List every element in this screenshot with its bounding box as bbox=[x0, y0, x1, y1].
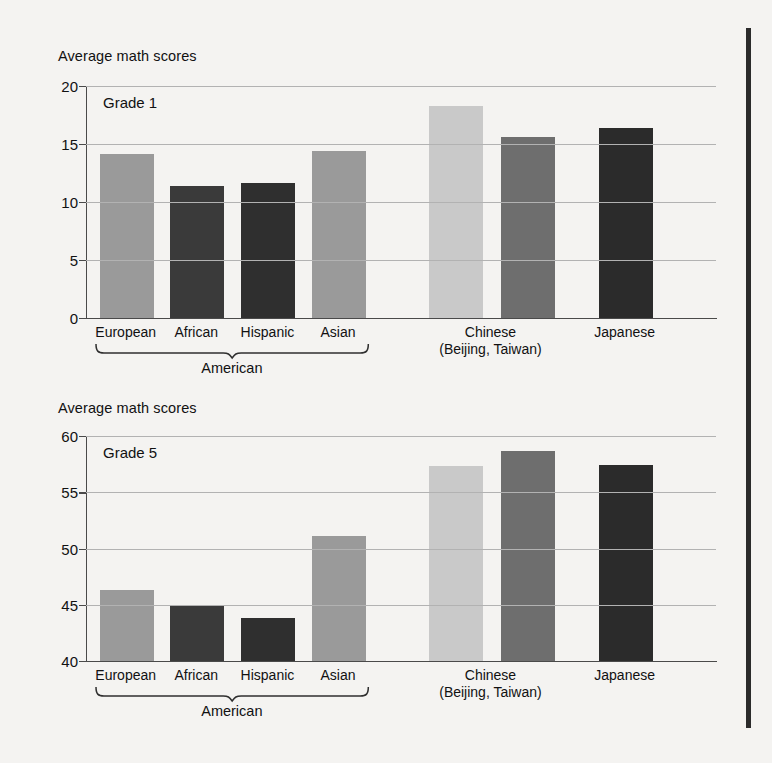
bar bbox=[312, 151, 366, 318]
x-axis-label-line: Chinese bbox=[439, 667, 541, 684]
y-tick-mark bbox=[79, 144, 86, 145]
x-axis-label-line: Asian bbox=[320, 667, 355, 684]
y-tick-label: 45 bbox=[38, 596, 78, 613]
x-axis-label: Hispanic bbox=[241, 667, 295, 684]
x-axis-label-line: (Beijing, Taiwan) bbox=[439, 684, 541, 701]
gridline bbox=[86, 202, 716, 203]
x-axis-label-line: Hispanic bbox=[241, 324, 295, 341]
x-axis-label-line: European bbox=[95, 667, 156, 684]
x-axis-label-line: African bbox=[174, 324, 218, 341]
x-axis-label-line: African bbox=[174, 667, 218, 684]
y-tick-mark bbox=[79, 549, 86, 550]
page-edge-rule bbox=[746, 28, 751, 728]
bar bbox=[100, 590, 154, 661]
y-tick-label: 0 bbox=[38, 310, 78, 327]
group-brace-icon bbox=[94, 344, 370, 360]
y-tick-mark bbox=[79, 436, 86, 437]
gridline bbox=[86, 436, 716, 437]
x-axis-label-line: Chinese bbox=[439, 324, 541, 341]
y-tick-label: 55 bbox=[38, 484, 78, 501]
y-tick-label: 40 bbox=[38, 653, 78, 670]
bar bbox=[429, 106, 483, 318]
y-tick-mark bbox=[79, 492, 86, 493]
x-axis-label: European bbox=[95, 324, 156, 341]
bar bbox=[241, 618, 295, 661]
gridline bbox=[86, 549, 716, 550]
x-axis-label-line: Hispanic bbox=[241, 667, 295, 684]
x-axis-label: Chinese(Beijing, Taiwan) bbox=[439, 324, 541, 357]
group-bracket-label: American bbox=[201, 360, 262, 376]
x-axis-label-line: Japanese bbox=[594, 324, 655, 341]
group-brace-icon bbox=[94, 687, 370, 703]
y-tick-mark bbox=[79, 86, 86, 87]
x-axis-label: European bbox=[95, 667, 156, 684]
bar bbox=[100, 154, 154, 318]
y-tick-label: 20 bbox=[38, 78, 78, 95]
bar bbox=[501, 137, 555, 318]
y-tick-label: 5 bbox=[38, 252, 78, 269]
bar bbox=[312, 536, 366, 661]
y-tick-mark bbox=[79, 202, 86, 203]
x-axis-label: Japanese bbox=[594, 667, 655, 684]
x-axis-label: Asian bbox=[320, 324, 355, 341]
figure-page: Average math scores Grade 1 05101520 Eur… bbox=[0, 0, 772, 763]
gridline bbox=[86, 605, 716, 606]
x-axis-label-line: European bbox=[95, 324, 156, 341]
gridline bbox=[86, 86, 716, 87]
y-tick-label: 10 bbox=[38, 194, 78, 211]
gridline bbox=[86, 492, 716, 493]
bar bbox=[599, 465, 653, 661]
y-tick-label: 15 bbox=[38, 136, 78, 153]
y-axis-title-grade-1: Average math scores bbox=[58, 48, 197, 64]
bar bbox=[170, 186, 224, 318]
y-tick-mark bbox=[79, 661, 86, 662]
x-axis-label-line: Japanese bbox=[594, 667, 655, 684]
bar bbox=[599, 128, 653, 318]
x-axis-label-line: (Beijing, Taiwan) bbox=[439, 341, 541, 358]
gridline bbox=[86, 144, 716, 145]
gridline bbox=[86, 260, 716, 261]
bar bbox=[170, 606, 224, 661]
y-tick-label: 50 bbox=[38, 540, 78, 557]
x-axis-label: Japanese bbox=[594, 324, 655, 341]
bar bbox=[241, 183, 295, 318]
x-axis-label: Chinese(Beijing, Taiwan) bbox=[439, 667, 541, 700]
group-bracket-label: American bbox=[201, 703, 262, 719]
x-axis-label-line: Asian bbox=[320, 324, 355, 341]
x-axis-label: African bbox=[174, 324, 218, 341]
x-axis-label: Asian bbox=[320, 667, 355, 684]
y-tick-mark bbox=[79, 605, 86, 606]
y-tick-mark bbox=[79, 260, 86, 261]
bar bbox=[501, 451, 555, 661]
y-tick-label: 60 bbox=[38, 428, 78, 445]
y-axis-title-grade-5: Average math scores bbox=[58, 400, 197, 416]
y-tick-mark bbox=[79, 318, 86, 319]
x-axis-label: African bbox=[174, 667, 218, 684]
bar bbox=[429, 466, 483, 661]
x-axis-label: Hispanic bbox=[241, 324, 295, 341]
